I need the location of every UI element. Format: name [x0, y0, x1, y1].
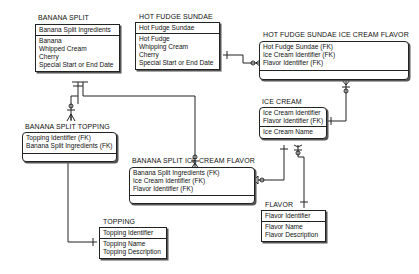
key-attr: Flavor Identifier (FK): [263, 117, 323, 125]
key-attr: Ice Cream Identifier (FK): [133, 177, 251, 185]
entity-title-flavor: FLAVOR: [265, 201, 293, 208]
key-attr: Hot Fudge Sundae: [139, 24, 216, 32]
entity-title-hot-fudge-sundae: HOT FUDGE SUNDAE: [139, 13, 213, 20]
key-attr: Flavor Identifier: [265, 212, 322, 220]
entity-flavor[interactable]: Flavor Identifier Flavor Name Flavor Des…: [261, 210, 326, 242]
attr: Cherry: [39, 53, 116, 61]
entity-topping[interactable]: Topping Identifier Topping Name Topping …: [99, 227, 167, 259]
entity-title-banana-split-topping: BANANA SPLIT TOPPING: [25, 123, 110, 130]
attr: Topping Name: [103, 240, 163, 248]
rel-hfs-hfs-ice-cream-flavor: [223, 51, 261, 67]
entity-title-banana-split: BANANA SPLIT: [38, 14, 89, 21]
entity-banana-split[interactable]: Banana Split Ingredients Banana Whipped …: [35, 24, 120, 72]
key-attr: Topping Identifier (FK): [26, 134, 113, 142]
attr: Whipping Cream: [139, 43, 216, 51]
entity-hfs-ice-cream-flavor[interactable]: Hot Fudge Sundae (FK) Ice Cream Identifi…: [259, 41, 409, 80]
key-attr: Banana Split Ingredients (FK): [133, 169, 251, 177]
rel-banana-split-topping: [67, 82, 88, 121]
attr: Flavor Name: [265, 223, 322, 231]
entity-title-ice-cream: ICE CREAM: [262, 98, 302, 105]
key-attr: Ice Cream Identifier: [263, 109, 323, 117]
attr: Flavor Description: [265, 231, 322, 239]
attr: Special Start or End Date: [139, 59, 216, 67]
entity-ice-cream[interactable]: Ice Cream Identifier Flavor Identifier (…: [259, 107, 327, 139]
attr: Ice Cream Name: [263, 128, 323, 136]
attr: Hot Fudge: [139, 35, 216, 43]
rel-ice-cream-bs-ice-cream-flavor: [254, 145, 288, 184]
entity-bs-ice-cream-flavor[interactable]: Banana Split Ingredients (FK) Ice Cream …: [129, 167, 255, 204]
attr: Whipped Cream: [39, 45, 116, 53]
key-attr: Banana Split Ingredients (FK): [26, 142, 113, 150]
key-attr: Ice Cream Identifier (FK): [263, 51, 405, 59]
rel-flavor-ice-cream: [294, 145, 308, 208]
attr: Cherry: [139, 51, 216, 59]
key-attr: Banana Split Ingredients: [39, 26, 116, 34]
attr: Topping Description: [103, 248, 163, 256]
entity-title-topping: TOPPING: [103, 218, 135, 225]
entity-banana-split-topping[interactable]: Topping Identifier (FK) Banana Split Ing…: [22, 132, 117, 162]
entity-title-hfs-ice-cream-flavor: HOT FUDGE SUNDAE ICE CREAM FLAVOR: [263, 31, 409, 38]
key-attr: Topping Identifier: [103, 229, 163, 237]
key-attr: Hot Fudge Sundae (FK): [263, 43, 405, 51]
entity-title-bs-ice-cream-flavor: BANANA SPLIT ICE CREAM FLAVOR: [132, 157, 255, 164]
attr: Special Start or End Date: [39, 61, 116, 69]
key-attr: Flavor Identifier (FK): [263, 59, 405, 67]
rel-ice-cream-hfs-ice-cream-flavor: [326, 80, 350, 125]
key-attr: Flavor Identifier (FK): [133, 185, 251, 193]
attr: Banana: [39, 37, 116, 45]
entity-hot-fudge-sundae[interactable]: Hot Fudge Sundae Hot Fudge Whipping Crea…: [135, 22, 220, 70]
